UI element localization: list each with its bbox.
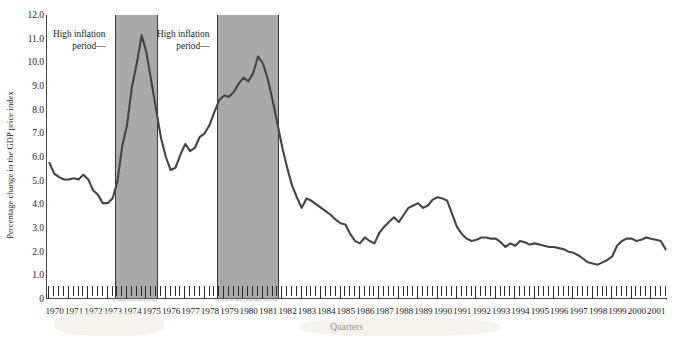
micro-quarter-label: Q1: [220, 298, 224, 302]
quarter-tick: [92, 286, 93, 296]
quarter-tick: [427, 286, 428, 296]
quarter-tick: [233, 286, 234, 296]
annotation-line-2: period—: [53, 41, 105, 53]
quarter-tick: [325, 286, 326, 296]
quarter-tick: [451, 286, 452, 296]
micro-quarter-label: Q4: [138, 298, 142, 302]
quarter-tick: [466, 286, 467, 296]
quarter-tick: [291, 286, 292, 296]
micro-quarter-label: Q1: [123, 298, 127, 302]
x-axis-year-1970: 1970: [45, 306, 64, 316]
annotation-line-1: High inflation: [157, 29, 209, 41]
quarter-tick: [471, 286, 472, 296]
quarter-tick: [373, 286, 374, 296]
quarter-tick: [267, 286, 268, 296]
quarter-tick: [296, 286, 297, 296]
quarter-tick: [228, 286, 229, 296]
quarter-tick: [257, 286, 258, 296]
x-axis-year-1986: 1986: [356, 306, 375, 316]
x-axis-year-1984: 1984: [317, 306, 336, 316]
quarter-tick: [53, 286, 54, 296]
quarter-tick: [335, 286, 336, 296]
quarter-tick: [602, 286, 603, 296]
quarter-tick: [213, 286, 214, 296]
quarter-tick: [543, 286, 544, 296]
quarter-tick: [597, 286, 598, 296]
plot-area: High inflation period— High inflation pe…: [46, 15, 667, 299]
y-axis-tick-12.0: 12.0: [10, 10, 44, 20]
inflation-line-series: [47, 15, 668, 299]
quarter-tick: [209, 286, 210, 296]
micro-quarter-label: Q2: [225, 298, 229, 302]
x-axis-year-1975: 1975: [142, 306, 161, 316]
quarter-tick: [82, 286, 83, 296]
quarter-tick: [354, 286, 355, 296]
quarter-tick: [655, 286, 656, 296]
quarter-tick: [199, 286, 200, 296]
quarter-tick: [73, 286, 74, 296]
quarter-tick: [155, 286, 156, 296]
micro-quarter-label: Q4: [273, 298, 277, 302]
quarter-tick: [194, 286, 195, 296]
quarter-tick: [121, 286, 122, 296]
quarter-tick: [272, 286, 273, 296]
quarter-tick: [441, 286, 442, 296]
y-axis-tick-4.0: 4.0: [10, 199, 44, 209]
micro-quarter-label: Q3: [269, 298, 273, 302]
quarter-tick: [315, 286, 316, 296]
quarter-tick: [364, 286, 365, 296]
quarter-tick: [238, 286, 239, 296]
x-axis-year-1994: 1994: [511, 306, 530, 316]
y-axis-tick-7.0: 7.0: [10, 128, 44, 138]
quarter-tick: [509, 286, 510, 296]
micro-quarter-label: Q3: [230, 298, 234, 302]
quarter-tick: [97, 286, 98, 296]
quarter-tick: [344, 286, 345, 296]
x-axis-year-1971: 1971: [64, 306, 83, 316]
quarter-tick: [529, 286, 530, 296]
quarter-tick: [407, 286, 408, 296]
annotation-line-1: High inflation: [53, 29, 105, 41]
quarter-tick: [538, 286, 539, 296]
y-axis-tick-labels: 12.011.010.09.08.07.06.05.04.03.02.01.00: [6, 0, 44, 337]
quarter-tick: [568, 286, 569, 296]
x-axis-title: Quarters: [0, 322, 693, 332]
y-axis-tick-0: 0: [10, 294, 44, 304]
annotation-high-inflation-2: High inflation period—: [157, 29, 209, 52]
annotation-line-2: period—: [157, 41, 209, 53]
micro-quarter-label: Q4: [254, 298, 258, 302]
quarter-tick: [136, 286, 137, 296]
x-axis-year-1973: 1973: [103, 306, 122, 316]
quarter-tick: [286, 286, 287, 296]
quarter-tick: [412, 286, 413, 296]
quarter-tick: [310, 286, 311, 296]
quarter-tick: [131, 286, 132, 296]
y-axis-tick-8.0: 8.0: [10, 105, 44, 115]
quarter-tick: [504, 286, 505, 296]
quarter-tick: [548, 286, 549, 296]
y-axis-tick-1.0: 1.0: [10, 270, 44, 280]
quarter-tick: [446, 286, 447, 296]
quarter-tick: [175, 286, 176, 296]
quarter-tick: [58, 286, 59, 296]
quarter-tick: [276, 286, 277, 296]
x-axis-year-1997: 1997: [569, 306, 588, 316]
quarter-tick: [563, 286, 564, 296]
y-axis-tick-11.0: 11.0: [10, 34, 44, 44]
x-axis-micro-labels: Q3Q4Q1Q2Q3Q4Q1Q2Q3Q4Q1Q2Q3Q4Q1Q2Q3Q4Q1Q2…: [46, 298, 667, 306]
quarter-tick: [349, 286, 350, 296]
y-axis-tick-2.0: 2.0: [10, 247, 44, 257]
y-axis-tick-9.0: 9.0: [10, 81, 44, 91]
quarter-tick: [640, 286, 641, 296]
quarter-tick: [63, 286, 64, 296]
quarter-tick: [393, 286, 394, 296]
quarter-tick: [524, 286, 525, 296]
quarter-tick: [606, 286, 607, 296]
micro-quarter-label: Q2: [244, 298, 248, 302]
x-axis-year-1981: 1981: [258, 306, 277, 316]
quarter-tick: [189, 286, 190, 296]
quarter-tick: [383, 286, 384, 296]
x-axis-year-labels: 1970197119721973197419751976197719781979…: [46, 306, 667, 320]
x-axis-year-1992: 1992: [472, 306, 491, 316]
x-axis-year-1974: 1974: [123, 306, 142, 316]
